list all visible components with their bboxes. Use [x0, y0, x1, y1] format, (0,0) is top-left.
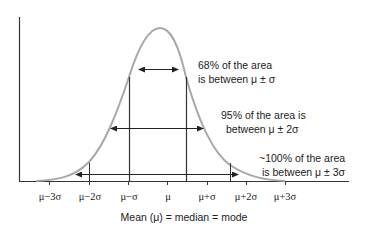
annotation-68-line2: is between μ ± σ — [198, 73, 276, 85]
tick-label-minus-sigma: μ−σ — [120, 191, 138, 202]
annotation-95-line1: 95% of the area is — [221, 109, 306, 121]
bell-curve — [36, 28, 285, 181]
annotation-68-line1: 68% of the area — [198, 59, 272, 71]
tick-label-plus-3-sigma: μ+3σ — [274, 191, 297, 202]
tick-label-mu: μ — [165, 191, 171, 202]
tick-label-plus-sigma: μ+σ — [198, 191, 216, 202]
tick-label-minus-2-sigma: μ−2σ — [79, 191, 102, 202]
x-axis-label: Mean (μ) = median = mode — [121, 211, 248, 223]
annotation-100-line2: is between μ ± 3σ — [262, 166, 346, 178]
tick-label-minus-3-sigma: μ−3σ — [39, 191, 62, 202]
normal-distribution-diagram: 68% of the area is between μ ± σ 95% of … — [0, 0, 368, 233]
annotation-100-line1: ~100% of the area — [259, 152, 345, 164]
annotation-95-line2: between μ ± 2σ — [226, 123, 299, 135]
tick-label-plus-2-sigma: μ+2σ — [235, 191, 258, 202]
